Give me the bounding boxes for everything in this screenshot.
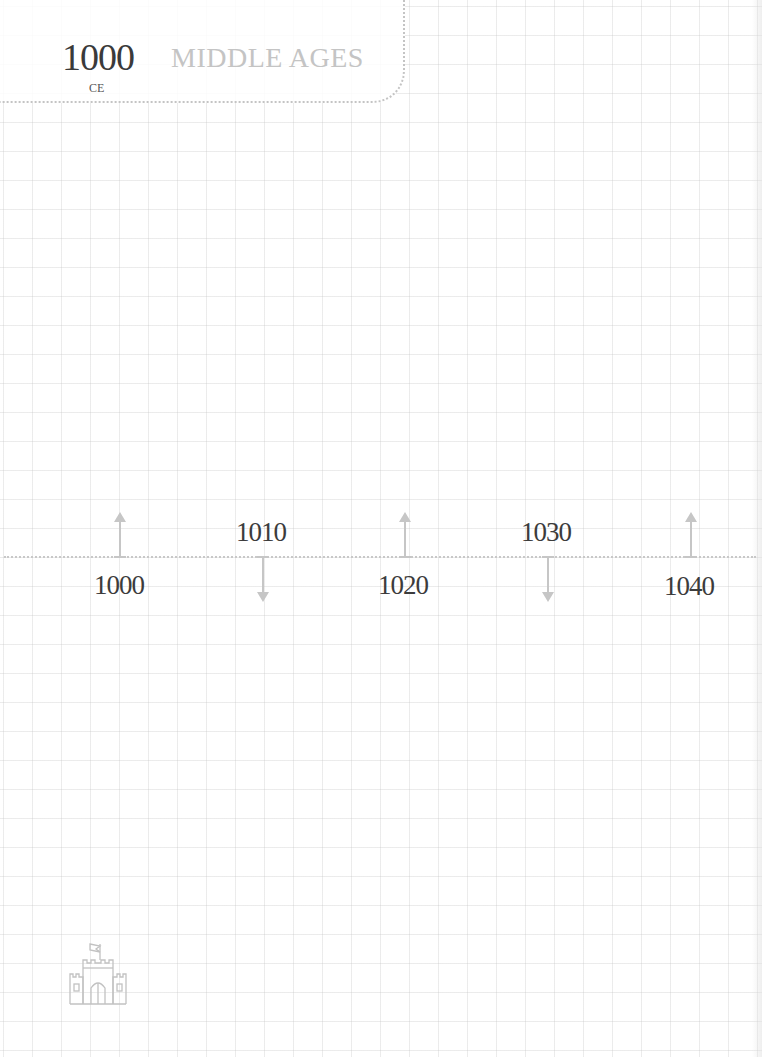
era-title: MIDDLE AGES — [171, 42, 364, 74]
castle-icon — [66, 940, 130, 1006]
era-start-year: 1000 — [62, 35, 134, 79]
arrow-down-icon — [542, 592, 554, 602]
timeline-label-1030: 1030 — [506, 517, 586, 547]
era-suffix: CE — [89, 81, 104, 95]
timeline-marker-1020 — [396, 512, 414, 558]
timeline-marker-1010 — [254, 556, 272, 603]
timeline-marker-1040 — [682, 512, 700, 558]
timeline-label-1040: 1040 — [649, 571, 729, 601]
timeline-label-1020: 1020 — [363, 570, 443, 600]
timeline-label-1010: 1010 — [221, 517, 301, 547]
arrow-down-icon — [257, 592, 269, 602]
page-edge-shadow — [752, 0, 762, 1057]
timeline-marker-1000 — [111, 512, 129, 558]
timeline-label-1000: 1000 — [79, 570, 159, 600]
timeline-marker-1030 — [539, 556, 557, 603]
